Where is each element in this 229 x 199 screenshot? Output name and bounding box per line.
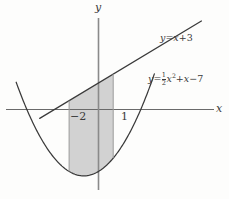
line-eq-op: +	[179, 32, 187, 43]
line-eq-const: 3	[187, 32, 193, 43]
par-eq-equals: =	[153, 73, 161, 84]
one-half-fraction: 12	[162, 72, 166, 86]
par-eq-op2: −	[189, 73, 197, 84]
y-axis-label: y	[95, 2, 101, 13]
shaded-region	[69, 74, 113, 176]
line-equation-label: y=x+3	[160, 33, 193, 43]
x-axis-label: x	[216, 103, 222, 114]
par-eq-op1: +	[176, 73, 184, 84]
math-figure: y x −2 1 y=x+3 y=12x2+x−7	[0, 0, 229, 199]
graph-canvas	[0, 0, 229, 199]
parabola-equation-label: y=12x2+x−7	[148, 72, 203, 86]
fraction-denominator: 2	[162, 79, 166, 87]
par-eq-const: 7	[197, 73, 203, 84]
fraction-numerator: 1	[162, 71, 166, 79]
x-tick-label-1: 1	[121, 111, 128, 122]
x-tick-label-minus-2: −2	[70, 111, 86, 122]
